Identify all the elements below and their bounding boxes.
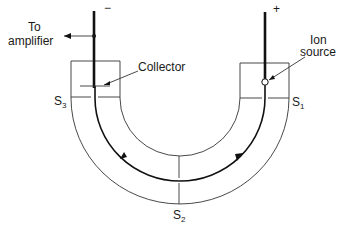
ion-source-leader-arrow <box>269 75 275 80</box>
s3-label: S3 <box>54 94 67 110</box>
mass-spectrometer-diagram: − + To amplifier Collector Ion source S1… <box>0 0 360 232</box>
negative-sign: − <box>104 1 111 15</box>
trajectory-arrow-left <box>120 152 127 159</box>
collector-label: Collector <box>138 60 185 74</box>
s1-label: S1 <box>292 95 305 111</box>
ion-source-label-line2: source <box>300 45 336 59</box>
flight-tube <box>71 61 289 204</box>
amplifier-label-line1: To <box>28 20 41 34</box>
outer-wall <box>71 98 289 204</box>
ion-source-icon <box>262 79 268 85</box>
ion-trajectory <box>95 84 265 181</box>
collector-leader-arrow <box>104 81 110 85</box>
ion-source-leader <box>269 57 305 80</box>
s2-label: S2 <box>173 208 186 224</box>
positive-sign: + <box>273 2 280 16</box>
inner-wall <box>120 98 240 156</box>
amplifier-label-line2: amplifier <box>8 34 53 48</box>
